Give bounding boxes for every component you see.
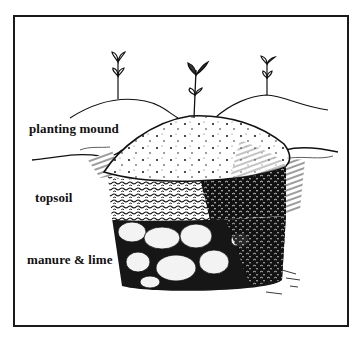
seedling-right: [261, 56, 275, 95]
seedling-left: [112, 52, 125, 99]
seedling-center: [188, 62, 208, 118]
label-planting-mound: planting mound: [29, 121, 119, 137]
label-manure-lime: manure & lime: [27, 252, 113, 268]
planting-mound-illustration: [0, 0, 362, 342]
label-topsoil: topsoil: [35, 190, 73, 206]
background-hills: [70, 95, 328, 118]
